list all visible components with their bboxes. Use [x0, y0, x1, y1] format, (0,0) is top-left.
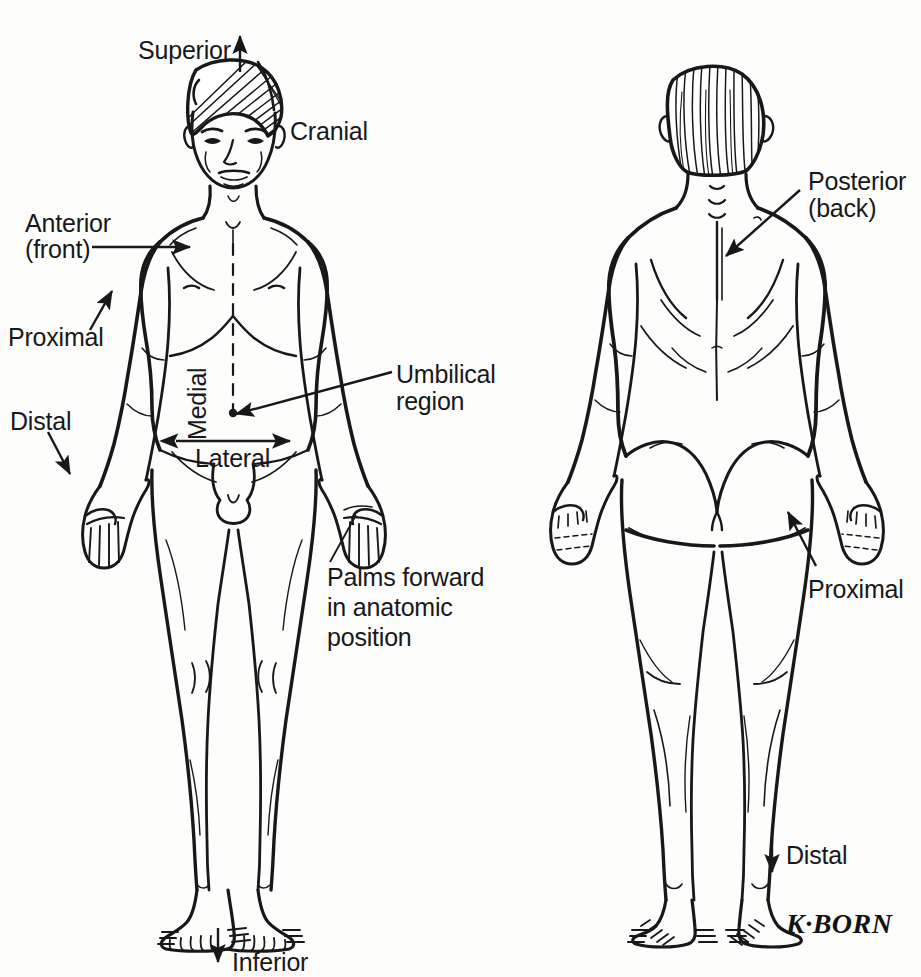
- right-leg-inner: [238, 530, 261, 890]
- palms-leader: [330, 515, 356, 562]
- label-proximal-right: Proximal: [808, 575, 904, 605]
- label-distal-right: Distal: [786, 841, 847, 871]
- left-leg-inner: [206, 530, 229, 890]
- artist-signature: K·BORN: [786, 908, 892, 940]
- left-foot: [161, 890, 234, 951]
- label-distal-left: Distal: [10, 407, 71, 437]
- back-left-leg-inner: [691, 552, 714, 900]
- label-proximal-left: Proximal: [8, 323, 104, 353]
- anterior-body-figure: [83, 58, 386, 951]
- label-medial: Medial: [183, 368, 212, 440]
- label-cranial: Cranial: [290, 117, 368, 147]
- back-right-leg-outer: [768, 480, 813, 900]
- anatomy-figure-canvas: Superior Cranial Anterior (front) Proxim…: [0, 0, 921, 977]
- back-left-foot: [633, 900, 696, 947]
- label-inferior: Inferior: [232, 948, 308, 977]
- label-umbilical-line2: region: [396, 387, 464, 417]
- right-leg-outer: [271, 470, 316, 890]
- left-leg-outer: [152, 470, 197, 890]
- label-lateral: Lateral: [195, 444, 270, 474]
- label-palms-line1: Palms forward: [327, 563, 484, 593]
- label-anterior-line2: (front): [25, 235, 90, 265]
- label-palms-line2: in anatomic: [327, 593, 453, 623]
- label-umbilical-line1: Umbilical: [396, 360, 496, 390]
- back-right-leg-inner: [722, 552, 745, 900]
- label-posterior-line1: Posterior: [808, 167, 906, 197]
- label-superior: Superior: [138, 36, 231, 66]
- anatomy-illustration: [0, 0, 921, 977]
- label-palms-line3: position: [327, 623, 412, 653]
- label-posterior-line2: (back): [808, 194, 876, 224]
- umbilical-leader: [236, 372, 392, 414]
- buttock-left: [626, 442, 717, 512]
- distal-left-arrow: [48, 432, 70, 474]
- buttock-right: [717, 442, 808, 512]
- back-left-leg-outer: [621, 480, 666, 900]
